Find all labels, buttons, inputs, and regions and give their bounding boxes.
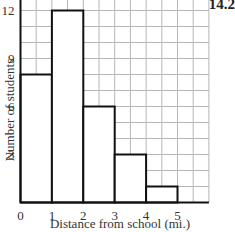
bar-1-2 — [52, 11, 83, 203]
bar-2-3 — [83, 107, 114, 203]
bar-3-4 — [115, 155, 146, 203]
bar-0-1 — [21, 75, 52, 203]
histogram-chart: 01234536912 Distance from school (mi.) N… — [0, 0, 235, 232]
x-axis-label: Distance from school (mi.) — [50, 216, 190, 231]
bar-4-5 — [146, 187, 177, 203]
y-tick-label: 12 — [2, 3, 15, 18]
x-tick-label: 0 — [17, 208, 24, 223]
y-axis-label: Number of students — [2, 59, 17, 162]
